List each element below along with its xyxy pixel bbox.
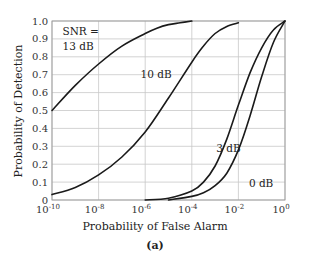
roc-chart: 00.10.20.30.40.50.60.70.80.91.0 10-1010-… xyxy=(0,0,309,257)
curve-label: SNR = xyxy=(62,25,98,37)
x-axis-label: Probability of False Alarm xyxy=(82,220,228,233)
y-tick-label: 0.6 xyxy=(32,87,48,98)
y-tick-label: 1.0 xyxy=(32,16,48,27)
figure-caption: (a) xyxy=(146,239,164,252)
x-tick-label: 10-8 xyxy=(85,203,105,215)
curve-label: 10 dB xyxy=(141,68,172,80)
y-tick-label: 0.5 xyxy=(32,105,48,116)
x-tick-label: 10-10 xyxy=(36,203,60,215)
y-tick-label: 0.3 xyxy=(32,141,48,152)
y-tick-label: 0.7 xyxy=(32,69,48,80)
curve-label: 3 dB xyxy=(216,142,241,154)
y-axis-label: Probability of Detection xyxy=(12,45,25,178)
y-axis-ticks: 00.10.20.30.40.50.60.70.80.91.0 xyxy=(32,16,48,206)
x-tick-label: 100 xyxy=(272,203,289,215)
y-tick-label: 0.4 xyxy=(32,123,48,134)
y-tick-label: 0.1 xyxy=(32,177,48,188)
curve-label: 0 dB xyxy=(249,177,274,189)
x-tick-label: 10-6 xyxy=(131,203,151,215)
y-tick-label: 0.9 xyxy=(32,33,48,44)
curve-label: 13 dB xyxy=(62,40,93,52)
y-tick-label: 0.8 xyxy=(32,51,48,62)
x-tick-label: 10-2 xyxy=(225,203,245,215)
curve-labels: SNR =13 dB10 dB3 dB0 dB xyxy=(62,25,273,189)
x-axis-ticks: 10-1010-810-610-410-2100 xyxy=(36,203,290,215)
y-tick-label: 0.2 xyxy=(32,159,48,170)
x-tick-label: 10-4 xyxy=(178,203,198,215)
